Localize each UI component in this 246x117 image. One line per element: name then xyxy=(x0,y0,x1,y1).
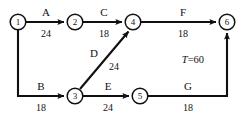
node-5-label: 5 xyxy=(138,91,143,101)
node-2-label: 2 xyxy=(73,17,78,27)
edge-A-name: A xyxy=(42,6,50,18)
edge-G-name: G xyxy=(184,80,192,92)
node-1[interactable]: 1 xyxy=(10,14,26,30)
edge-D-name: D xyxy=(90,47,98,59)
node-4[interactable]: 4 xyxy=(125,14,141,30)
network-svg: 1 2 3 4 5 6 A C F B D E G 24 18 xyxy=(0,0,246,117)
node-6[interactable]: 6 xyxy=(219,14,235,30)
node-3-label: 3 xyxy=(73,91,78,101)
edge-E-duration: 24 xyxy=(103,102,113,113)
edge-B-name: B xyxy=(37,80,44,92)
node-1-label: 1 xyxy=(16,17,21,27)
node-3[interactable]: 3 xyxy=(67,88,83,104)
node-6-label: 6 xyxy=(225,17,230,27)
total-duration-value: =60 xyxy=(188,54,204,65)
node-4-label: 4 xyxy=(131,17,136,27)
edge-G-duration: 18 xyxy=(183,102,193,113)
edge-D-duration: 24 xyxy=(109,61,119,72)
edge-C-name: C xyxy=(100,6,107,18)
edge-C-duration: 18 xyxy=(99,28,109,39)
project-network-diagram: 1 2 3 4 5 6 A C F B D E G 24 18 xyxy=(0,0,246,117)
edge-F-name: F xyxy=(180,6,186,18)
edge-A-duration: 24 xyxy=(41,28,51,39)
node-2[interactable]: 2 xyxy=(67,14,83,30)
edge-E-name: E xyxy=(105,80,112,92)
node-5[interactable]: 5 xyxy=(132,88,148,104)
total-duration-annotation: T=60 xyxy=(182,54,204,65)
edge-B-duration: 18 xyxy=(36,102,46,113)
edge-F-duration: 18 xyxy=(178,28,188,39)
